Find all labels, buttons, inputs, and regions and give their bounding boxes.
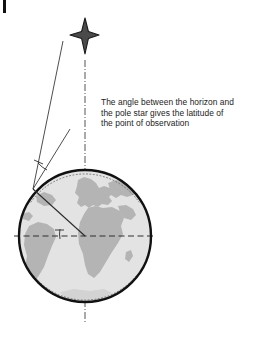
astronomy-latitude-diagram: The angle between the horizon and the po… bbox=[0, 0, 265, 340]
altitude-angle-mark bbox=[34, 160, 47, 170]
diagram-canvas bbox=[0, 0, 265, 340]
line-of-sight-to-pole-star bbox=[33, 41, 63, 189]
annotation-text: The angle between the horizon and the po… bbox=[101, 97, 253, 129]
pole-star-icon bbox=[70, 18, 99, 54]
